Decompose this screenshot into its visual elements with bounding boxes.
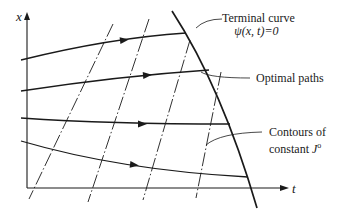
- optimal-path: [21, 70, 209, 91]
- t-axis-label: t: [292, 182, 296, 195]
- optimal-path: [21, 141, 248, 177]
- contour-line: [196, 72, 221, 198]
- terminal-curve: [172, 11, 257, 208]
- x-axis-label: x: [16, 10, 22, 23]
- x-axis: [24, 12, 30, 188]
- diagram-canvas: [0, 0, 351, 216]
- x-axis-arrow-icon: [24, 12, 30, 20]
- contours-label: Contours of constant Jo: [269, 126, 326, 156]
- j-superscript: o: [317, 141, 321, 150]
- terminal-curve-label: Terminal curve ψ(x, t)=0: [222, 12, 295, 38]
- terminal-curve-equation: ψ(x, t)=0: [222, 25, 295, 38]
- optimal-path: [21, 33, 186, 60]
- arrow-right-icon: [138, 121, 147, 128]
- contour-line: [29, 24, 113, 199]
- arrow-right-icon: [143, 71, 153, 79]
- contours-subtitle-text: constant: [269, 142, 312, 156]
- optimal-path: [21, 118, 230, 124]
- arrow-right-icon: [120, 36, 130, 44]
- contours-title: Contours of: [269, 126, 326, 139]
- path-direction-arrows: [120, 36, 153, 169]
- contour-line: [143, 40, 190, 200]
- leader-terminal-curve: [196, 19, 222, 28]
- optimal-paths-label: Optimal paths: [256, 72, 324, 85]
- optimal-paths: [21, 33, 248, 177]
- contour-line: [88, 19, 149, 202]
- contours-subtitle: constant Jo: [269, 139, 326, 156]
- arrow-right-icon: [130, 161, 140, 169]
- t-axis-arrow-icon: [280, 185, 289, 191]
